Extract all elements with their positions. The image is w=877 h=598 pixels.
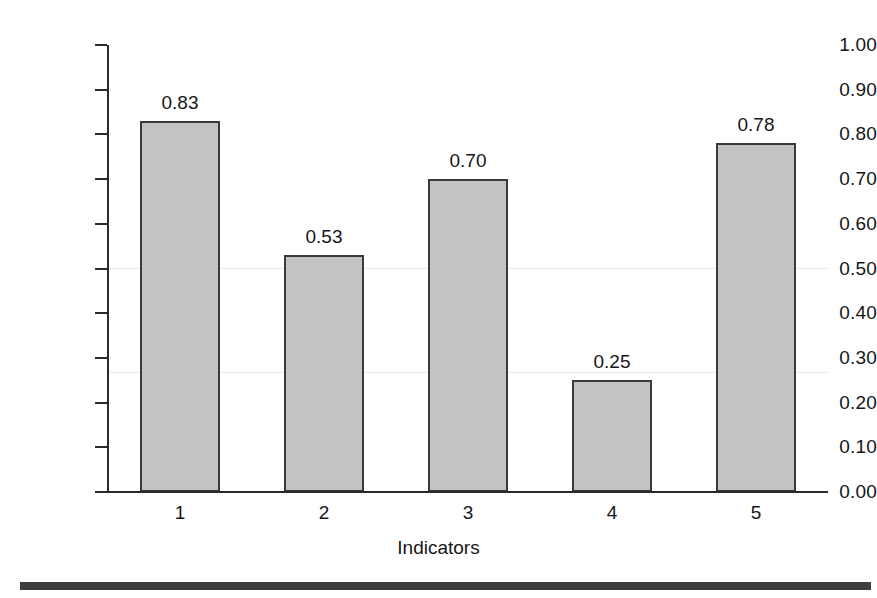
bar bbox=[284, 255, 364, 492]
bar bbox=[572, 380, 652, 492]
y-axis-tick bbox=[95, 268, 107, 270]
x-axis-tick-label: 4 bbox=[572, 503, 652, 522]
y-axis-tick bbox=[95, 133, 107, 135]
bar-value-label: 0.78 bbox=[686, 115, 826, 134]
y-axis-tick bbox=[95, 491, 107, 493]
bar-value-label: 0.53 bbox=[254, 227, 394, 246]
bar-value-label: 0.70 bbox=[398, 151, 538, 170]
bar-value-label: 0.25 bbox=[542, 352, 682, 371]
y-axis-tick bbox=[95, 223, 107, 225]
bottom-rule bbox=[20, 582, 871, 590]
y-axis-tick bbox=[95, 89, 107, 91]
y-axis-tick bbox=[95, 402, 107, 404]
y-axis-tick bbox=[95, 312, 107, 314]
bar bbox=[428, 179, 508, 492]
bar-value-label: 0.83 bbox=[110, 93, 250, 112]
y-axis-tick bbox=[95, 357, 107, 359]
x-axis-tick-label: 5 bbox=[716, 503, 796, 522]
y-axis-tick bbox=[95, 446, 107, 448]
x-axis-tick-label: 1 bbox=[140, 503, 220, 522]
x-axis-title: Indicators bbox=[0, 538, 877, 557]
plot-area: 0.830.530.700.250.78 bbox=[108, 45, 828, 492]
chart-page: 0.000.100.200.300.400.500.600.700.800.90… bbox=[0, 0, 877, 598]
bar bbox=[140, 121, 220, 492]
x-axis-tick-label: 2 bbox=[284, 503, 364, 522]
x-axis-tick-label: 3 bbox=[428, 503, 508, 522]
y-axis-tick bbox=[95, 44, 107, 46]
x-axis-line bbox=[107, 491, 828, 493]
y-axis-tick bbox=[95, 178, 107, 180]
bar bbox=[716, 143, 796, 492]
